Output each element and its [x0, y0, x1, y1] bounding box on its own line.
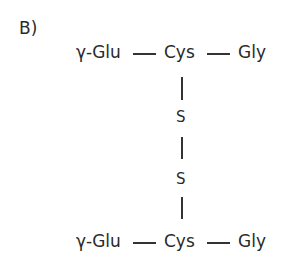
panel-label: B) [19, 18, 37, 38]
bond-s2-cys [181, 197, 183, 219]
bottom-bond-right [207, 242, 230, 244]
bottom-gamma-glu: γ-Glu [76, 231, 121, 251]
top-bond-right [207, 53, 230, 55]
bottom-gly: Gly [238, 231, 266, 251]
top-cys: Cys [164, 42, 195, 62]
top-gamma-glu: γ-Glu [76, 42, 121, 62]
bond-s1-s2 [181, 137, 183, 159]
top-bond-left [133, 53, 156, 55]
sulfur-1: S [176, 108, 186, 126]
top-gly: Gly [238, 42, 266, 62]
bond-cys-s1 [181, 77, 183, 100]
bottom-bond-left [133, 242, 156, 244]
sulfur-2: S [176, 170, 186, 188]
bottom-cys: Cys [164, 231, 195, 251]
